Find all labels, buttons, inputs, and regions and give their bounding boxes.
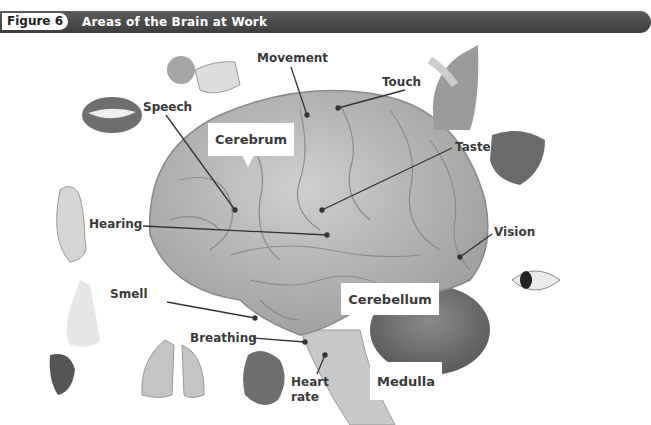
tongue-icon [490, 131, 545, 185]
medulla-callout: Medulla [370, 362, 442, 400]
mouth-icon [82, 97, 142, 133]
label-heart: Heart [291, 375, 329, 389]
label-smell: Smell [110, 287, 148, 301]
medulla-label: Medulla [377, 374, 435, 389]
cat-petting-icon [430, 45, 478, 130]
label-movement: Movement [257, 51, 328, 65]
cerebrum-label: Cerebrum [215, 132, 287, 147]
nose-icon [50, 280, 100, 395]
label-hearing: Hearing [89, 217, 142, 231]
heart-icon [243, 351, 284, 405]
label-touch: Touch [382, 75, 421, 89]
eye-icon [512, 271, 560, 290]
hand-ball-icon [167, 56, 240, 93]
ear-icon [57, 186, 86, 262]
cerebellum-label: Cerebellum [348, 292, 431, 307]
label-taste: Taste [455, 140, 491, 154]
label-speech: Speech [143, 100, 192, 114]
lungs-icon [142, 340, 204, 398]
label-rate: rate [291, 390, 319, 404]
cerebellum-callout: Cerebellum [341, 283, 439, 315]
label-breathing: Breathing [190, 331, 257, 345]
label-vision: Vision [494, 225, 535, 239]
cerebrum-callout: Cerebrum [208, 123, 294, 156]
